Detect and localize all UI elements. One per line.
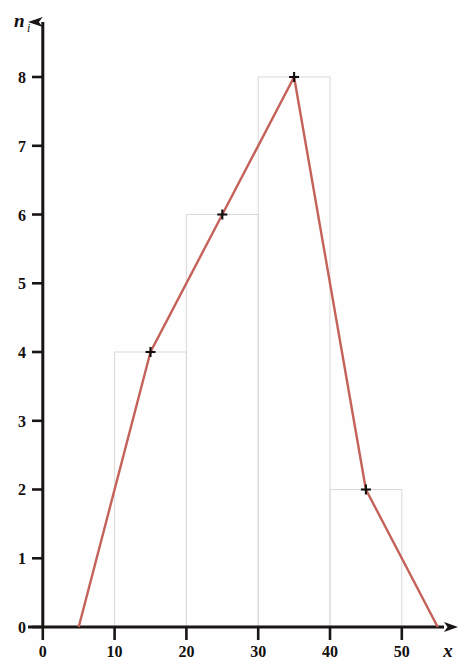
y-tick-label: 3 <box>18 413 26 430</box>
y-tick-label: 2 <box>18 481 26 498</box>
x-axis-title: x <box>442 640 453 660</box>
frequency-polygon-chart: 0 1 2 3 4 5 6 7 8 n i 0 10 20 30 40 5 <box>0 0 472 660</box>
histogram-bar <box>115 352 187 627</box>
histogram-bars <box>115 77 402 627</box>
x-tick-label: 50 <box>394 643 410 660</box>
x-tick-label: 10 <box>107 643 123 660</box>
histogram-bar <box>258 77 330 627</box>
y-tick-label: 5 <box>18 275 26 292</box>
data-point-marker <box>361 485 371 495</box>
y-axis-title-subscript: i <box>27 21 30 35</box>
x-tick-label: 20 <box>178 643 194 660</box>
y-axis: 0 1 2 3 4 5 6 7 8 n i <box>14 10 43 636</box>
x-tick-label: 0 <box>39 643 47 660</box>
x-tick-label: 30 <box>250 643 266 660</box>
y-tick-label: 4 <box>18 344 26 361</box>
y-tick-label: 8 <box>18 69 26 86</box>
data-point-marker <box>289 72 299 82</box>
x-tick-label: 40 <box>322 643 338 660</box>
y-tick-label: 0 <box>18 619 26 636</box>
histogram-bar <box>186 215 258 628</box>
x-axis: 0 10 20 30 40 50 x <box>28 627 453 660</box>
y-tick-label: 7 <box>18 138 26 155</box>
data-point-marker <box>146 347 156 357</box>
data-point-marker <box>217 210 227 220</box>
y-tick-label: 6 <box>18 207 26 224</box>
chart-container: 0 1 2 3 4 5 6 7 8 n i 0 10 20 30 40 5 <box>0 0 472 660</box>
y-axis-title: n <box>14 10 25 31</box>
histogram-bar <box>330 490 402 628</box>
y-tick-label: 1 <box>18 550 26 567</box>
